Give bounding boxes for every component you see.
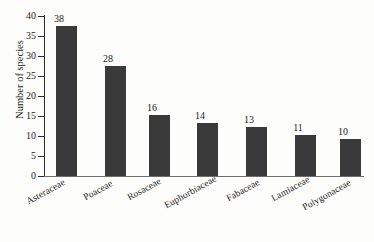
x-category-label-euphorbiaceae: Euphorbiaceae bbox=[163, 174, 218, 211]
plot-area bbox=[44, 16, 362, 176]
y-tick-label-20: 20 bbox=[16, 91, 36, 101]
y-tick-label-40: 40 bbox=[16, 11, 36, 21]
x-category-label-fabaceae: Fabaceae bbox=[225, 177, 261, 203]
bar-poaceae[interactable] bbox=[105, 66, 126, 176]
bar-lamiaceae[interactable] bbox=[295, 135, 316, 176]
bar-asteraceae[interactable] bbox=[56, 26, 77, 176]
species-per-family-bar-chart: Number of species 0 5 10 15 20 25 30 35 … bbox=[0, 0, 374, 242]
bar-value-asteraceae: 38 bbox=[48, 14, 70, 24]
y-tick-label-15: 15 bbox=[16, 111, 36, 121]
y-tick-0 bbox=[38, 176, 44, 177]
x-category-label-asteraceae: Asteraceae bbox=[25, 177, 67, 206]
bar-fabaceae[interactable] bbox=[246, 127, 267, 176]
bar-polygonaceae[interactable] bbox=[340, 139, 361, 176]
bar-euphorbiaceae[interactable] bbox=[197, 123, 218, 176]
bar-value-fabaceae: 13 bbox=[238, 115, 260, 125]
y-tick-label-5: 5 bbox=[16, 151, 36, 161]
y-tick-label-25: 25 bbox=[16, 71, 36, 81]
bar-rosaceae[interactable] bbox=[149, 115, 170, 176]
bar-value-euphorbiaceae: 14 bbox=[189, 111, 211, 121]
y-tick-label-10: 10 bbox=[16, 131, 36, 141]
x-category-label-poaceae: Poaceae bbox=[82, 178, 115, 202]
x-axis-line bbox=[44, 176, 364, 177]
x-category-label-lamiaceae: Lamiaceae bbox=[270, 174, 312, 203]
bar-value-poaceae: 28 bbox=[97, 54, 119, 64]
y-tick-label-35: 35 bbox=[16, 31, 36, 41]
y-tick-label-30: 30 bbox=[16, 51, 36, 61]
bar-value-polygonaceae: 10 bbox=[332, 127, 354, 137]
y-tick-label-0: 0 bbox=[16, 171, 36, 181]
bar-value-lamiaceae: 11 bbox=[287, 123, 309, 133]
bar-value-rosaceae: 16 bbox=[141, 103, 163, 113]
x-category-label-rosaceae: Rosaceae bbox=[126, 176, 163, 203]
